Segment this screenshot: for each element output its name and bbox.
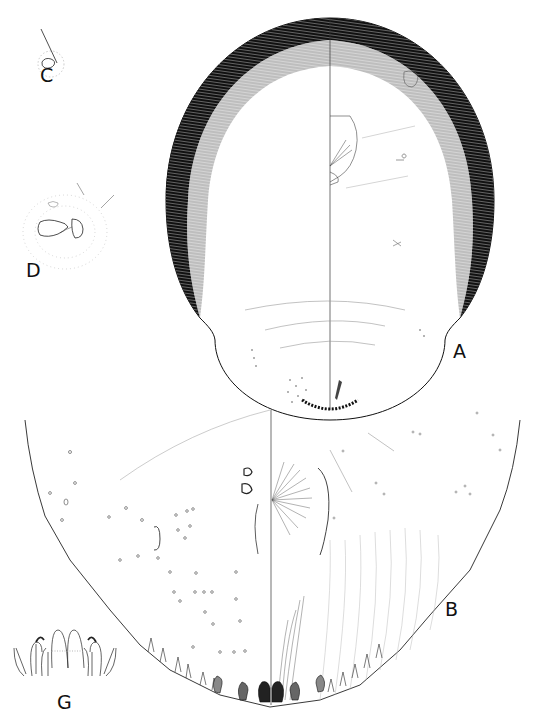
figure-b-pygidium [25,410,520,707]
figure-label-a: A [453,342,466,361]
figure-d-spiracle [23,183,114,269]
figure-label-b: B [445,600,458,619]
figure-label-g: G [57,693,72,712]
figure-g-lobes-detail [14,630,116,676]
figure-label-c: C [40,66,53,85]
figure-label-d: D [26,261,41,280]
figure-a-whole-body [166,18,494,420]
